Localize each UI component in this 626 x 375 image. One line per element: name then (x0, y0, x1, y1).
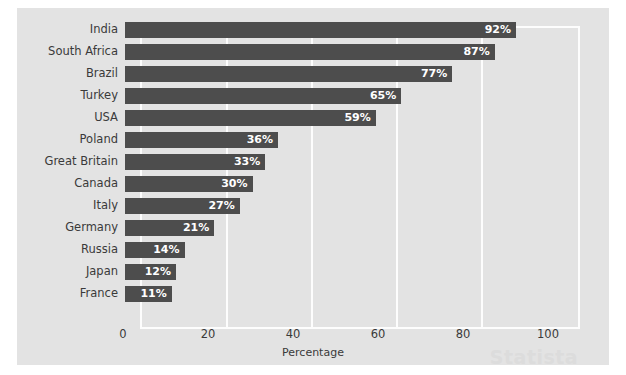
category-label: Japan (0, 262, 118, 280)
category-label: South Africa (0, 42, 118, 60)
xtick-label: 40 (263, 327, 323, 341)
bar[interactable]: 30% (125, 176, 253, 192)
category-label: Germany (0, 218, 118, 236)
category-label: Poland (0, 130, 118, 148)
bar-row: France 11% (0, 286, 626, 302)
bar-rows: India 92% South Africa 87% Brazil 77% Tu… (0, 0, 626, 375)
x-axis-title: Percentage (0, 346, 626, 359)
bar-value-label: 12% (145, 264, 171, 280)
category-label: USA (0, 108, 118, 126)
bar[interactable]: 14% (125, 242, 185, 258)
bar-row: Japan 12% (0, 264, 626, 280)
category-label: Canada (0, 174, 118, 192)
bar-row: Brazil 77% (0, 66, 626, 82)
bar-row: Russia 14% (0, 242, 626, 258)
bar-value-label: 14% (153, 242, 179, 258)
xtick-label: 0 (93, 327, 153, 341)
bar-row: Italy 27% (0, 198, 626, 214)
bar[interactable]: 87% (125, 44, 495, 60)
bar-row: South Africa 87% (0, 44, 626, 60)
bar-value-label: 65% (370, 88, 396, 104)
category-label: Brazil (0, 64, 118, 82)
bar-value-label: 27% (208, 198, 234, 214)
xtick-label: 60 (348, 327, 408, 341)
bar-row: Poland 36% (0, 132, 626, 148)
bar-row: Turkey 65% (0, 88, 626, 104)
bar[interactable]: 77% (125, 66, 452, 82)
bar[interactable]: 36% (125, 132, 278, 148)
bar-value-label: 36% (247, 132, 273, 148)
bar-row: USA 59% (0, 110, 626, 126)
bar[interactable]: 12% (125, 264, 176, 280)
category-label: Turkey (0, 86, 118, 104)
category-label: Russia (0, 240, 118, 258)
bar-chart: Statista India 92% South Africa 87% Braz… (0, 0, 626, 375)
category-label: India (0, 20, 118, 38)
bar-value-label: 59% (344, 110, 370, 126)
xtick-label: 80 (433, 327, 493, 341)
bar-value-label: 33% (234, 154, 260, 170)
bar[interactable]: 65% (125, 88, 401, 104)
xtick-label: 20 (178, 327, 238, 341)
category-label: France (0, 284, 118, 302)
bar-value-label: 11% (140, 286, 166, 302)
bar[interactable]: 11% (125, 286, 172, 302)
bar-value-label: 30% (221, 176, 247, 192)
bar-row: Germany 21% (0, 220, 626, 236)
bar-value-label: 92% (485, 22, 511, 38)
bar-row: Canada 30% (0, 176, 626, 192)
bar-value-label: 21% (183, 220, 209, 236)
bar[interactable]: 21% (125, 220, 214, 236)
bar-value-label: 77% (421, 66, 447, 82)
bar-row: India 92% (0, 22, 626, 38)
bar[interactable]: 92% (125, 22, 516, 38)
bar-value-label: 87% (463, 44, 489, 60)
bar[interactable]: 59% (125, 110, 376, 126)
bar[interactable]: 27% (125, 198, 240, 214)
category-label: Italy (0, 196, 118, 214)
bar-row: Great Britain 33% (0, 154, 626, 170)
bar[interactable]: 33% (125, 154, 265, 170)
xtick-label: 100 (518, 327, 578, 341)
category-label: Great Britain (0, 152, 118, 170)
